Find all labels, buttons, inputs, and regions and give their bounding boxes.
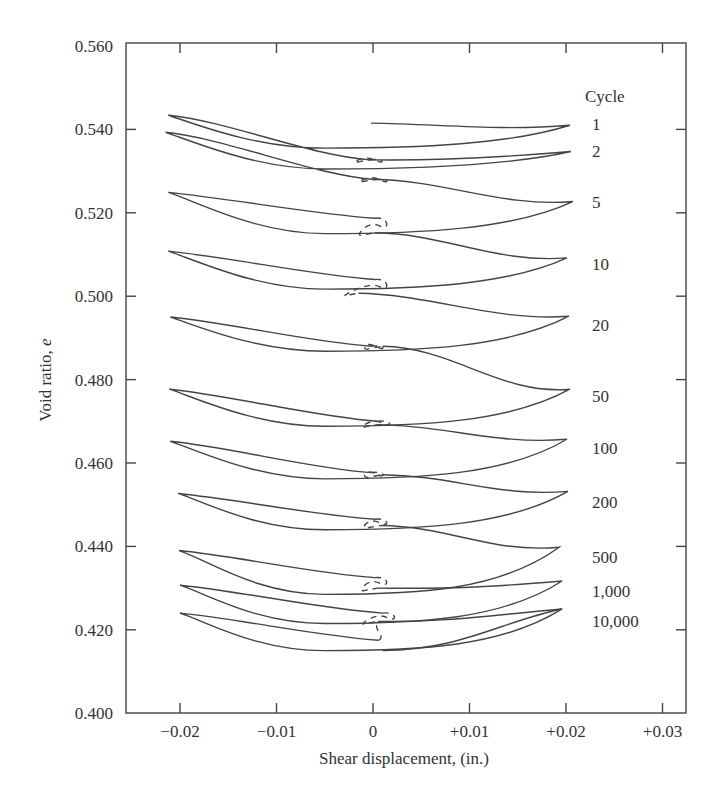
cycle-label-100: 100	[592, 439, 618, 458]
x-tick-label: −0.02	[160, 722, 199, 741]
y-tick-label: 0.540	[75, 120, 113, 139]
cycle-loop	[166, 132, 571, 179]
x-tick-label: 0	[369, 722, 378, 741]
y-tick-label: 0.480	[75, 371, 113, 390]
x-axis-title: Shear displacement, (in.)	[319, 749, 489, 768]
y-tick-label: 0.440	[75, 537, 113, 556]
cycle-loop	[170, 293, 569, 351]
cycle-label-200: 200	[592, 493, 618, 512]
x-tick-labels: −0.02−0.010+0.01+0.02+0.03	[160, 722, 682, 741]
y-tick-label: 0.420	[75, 621, 113, 640]
legend-title: Cycle	[585, 87, 625, 106]
cycle-loop	[170, 425, 567, 479]
void-ratio-chart: −0.02−0.010+0.01+0.02+0.03 0.4000.4200.4…	[0, 0, 723, 810]
cycle-loop	[180, 609, 562, 651]
cycle-label-20: 20	[592, 316, 609, 335]
y-axis-title: Void ratio, e	[36, 338, 55, 422]
cycle-label-2: 2	[592, 142, 601, 161]
x-tick-label: +0.01	[450, 722, 489, 741]
dashed-connector	[364, 519, 387, 528]
y-tick-label: 0.560	[75, 37, 113, 56]
cycle-label-50: 50	[592, 387, 609, 406]
cycle-label-10: 10	[592, 255, 609, 274]
cycle-loop	[180, 581, 562, 624]
x-tick-label: −0.01	[257, 722, 296, 741]
y-tick-label: 0.460	[75, 454, 113, 473]
hysteresis-loops	[166, 115, 573, 650]
cycle-label-5: 5	[592, 193, 601, 212]
cycle-label-500: 500	[592, 548, 618, 567]
y-tick-label: 0.520	[75, 204, 113, 223]
cycle-label-1000: 1,000	[592, 582, 630, 601]
cycle-label-10000: 10,000	[592, 612, 639, 631]
cycle-loop	[168, 179, 572, 233]
cycle-connector-dashed-line	[345, 158, 395, 640]
cycle-loop	[168, 233, 567, 289]
dashed-connector	[364, 345, 383, 350]
x-tick-label: +0.03	[643, 722, 682, 741]
cycle-label-1: 1	[592, 115, 601, 134]
y-tick-label: 0.400	[75, 704, 113, 723]
x-tick-label: +0.02	[546, 722, 585, 741]
cycle-loop	[178, 475, 568, 530]
final-branch	[383, 609, 562, 651]
cycle-loop	[169, 346, 569, 426]
dashed-connector	[376, 621, 381, 640]
cycle-loop	[179, 526, 559, 595]
y-tick-label: 0.500	[75, 287, 113, 306]
y-tick-labels: 0.4000.4200.4400.4600.4800.5000.5200.540…	[75, 37, 113, 723]
cycle-labels: 1251020501002005001,00010,000	[592, 115, 639, 631]
